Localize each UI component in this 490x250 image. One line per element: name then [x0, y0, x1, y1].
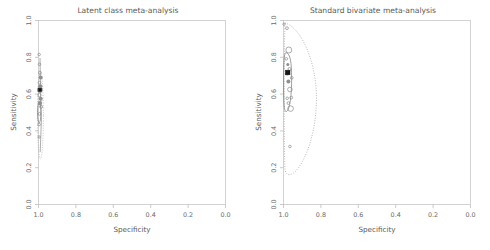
panel-standard-bivariate: Standard bivariate meta-analysis 1.0 0.8… [245, 0, 490, 250]
plot-frame-right [284, 21, 471, 205]
x-tick-left-3: 0.4 [146, 211, 156, 219]
y-tick-right-3: 0.6 [270, 89, 278, 99]
y-tick-right-0: 0.0 [270, 199, 278, 209]
y-axis-label-left: Sensitivity [9, 93, 18, 131]
x-tick-right-3: 0.4 [391, 211, 401, 219]
x-tick-right-5: 0.0 [465, 211, 475, 219]
plot-frame-left [39, 21, 226, 205]
x-tick-left-4: 0.2 [183, 211, 193, 219]
x-axis-label-left: Specificity [113, 225, 151, 234]
x-tick-left-2: 0.6 [108, 211, 118, 219]
y-axis-ticks-left: 0.0 0.2 0.4 0.6 0.8 1.0 [25, 15, 39, 209]
summary-point-right [285, 70, 290, 75]
x-tick-right-4: 0.2 [428, 211, 438, 219]
y-axis-label-right: Sensitivity [254, 93, 263, 131]
x-tick-left-0: 1.0 [33, 211, 43, 219]
panel-left-canvas: Latent class meta-analysis 1.0 0.8 0.6 0… [0, 0, 245, 250]
y-tick-right-1: 0.2 [270, 163, 278, 173]
y-tick-right-5: 1.0 [270, 15, 278, 25]
x-axis-label-right: Specificity [358, 225, 396, 234]
prediction-region-right [284, 23, 316, 175]
x-tick-right-0: 1.0 [278, 211, 288, 219]
x-axis-ticks-left: 1.0 0.8 0.6 0.4 0.2 0.0 [33, 205, 230, 219]
y-tick-left-0: 0.0 [25, 199, 33, 209]
x-axis-ticks-right: 1.0 0.8 0.6 0.4 0.2 0.0 [278, 205, 475, 219]
y-tick-left-1: 0.2 [25, 163, 33, 173]
y-tick-left-5: 1.0 [25, 15, 33, 25]
figure-root: Latent class meta-analysis 1.0 0.8 0.6 0… [0, 0, 490, 250]
x-tick-left-5: 0.0 [220, 211, 230, 219]
y-tick-right-4: 0.8 [270, 52, 278, 62]
y-tick-left-4: 0.8 [25, 52, 33, 62]
x-tick-right-1: 0.8 [316, 211, 326, 219]
x-tick-right-2: 0.6 [353, 211, 363, 219]
summary-point-left [39, 88, 42, 91]
panel-right-title: Standard bivariate meta-analysis [310, 6, 436, 15]
panel-latent-class: Latent class meta-analysis 1.0 0.8 0.6 0… [0, 0, 245, 250]
y-axis-ticks-right: 0.0 0.2 0.4 0.6 0.8 1.0 [270, 15, 284, 209]
x-tick-left-1: 0.8 [71, 211, 81, 219]
y-tick-left-3: 0.6 [25, 89, 33, 99]
panel-left-title: Latent class meta-analysis [77, 6, 178, 15]
y-tick-left-2: 0.4 [25, 126, 33, 136]
panel-right-canvas: Standard bivariate meta-analysis 1.0 0.8… [245, 0, 490, 250]
y-tick-right-2: 0.4 [270, 126, 278, 136]
